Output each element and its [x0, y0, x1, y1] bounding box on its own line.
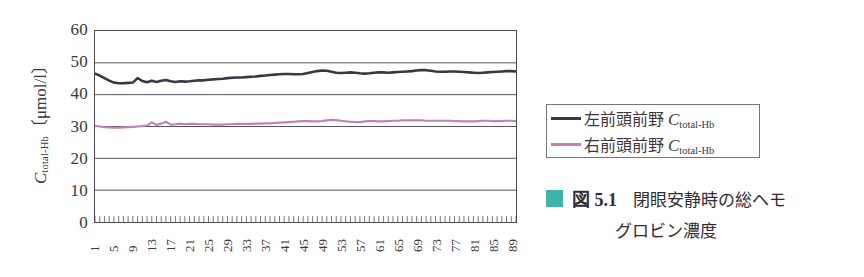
- plot-svg: [95, 31, 516, 222]
- caption-text-first-line: 閉眼安静時の総ヘモ: [633, 186, 786, 211]
- legend-entry-label: 右前頭前野Ctotal-Hb: [584, 132, 714, 156]
- caption-text-second-line: グロビン濃度: [615, 222, 717, 241]
- x-axis-tick-label: 37: [259, 212, 272, 252]
- legend-box: 左前頭前野Ctotal-Hb右前頭前野Ctotal-Hb: [546, 104, 760, 158]
- x-axis-tick-label: 49: [316, 212, 329, 252]
- y-axis-title-subscript: total-Hb: [39, 136, 50, 173]
- x-axis-tick-label: 81: [468, 212, 481, 252]
- x-axis-tick-label: 17: [164, 212, 177, 252]
- legend-label-symbol: C: [664, 136, 679, 155]
- y-axis-tick-label: 60: [48, 21, 88, 38]
- y-axis-tick-labels: 6050403020100: [44, 0, 88, 277]
- legend-color-swatch: [551, 117, 581, 120]
- x-axis-tick-label: 45: [297, 212, 310, 252]
- x-axis-tick-label: 65: [392, 212, 405, 252]
- y-axis-tick-label: 20: [48, 150, 88, 167]
- x-axis-tick-label: 61: [373, 212, 386, 252]
- x-axis-tick-labels: 1591317212529333741454953576165697377818…: [94, 224, 517, 277]
- legend-entry-2[interactable]: 右前頭前野Ctotal-Hb: [547, 131, 759, 157]
- x-axis-tick-label: 89: [506, 212, 519, 252]
- x-axis-tick-label: 25: [202, 212, 215, 252]
- legend-label-subscript: total-Hb: [679, 119, 714, 130]
- legend-label-text: 右前頭前野: [584, 137, 664, 154]
- figure-caption: 図 5.1 閉眼安静時の総ヘモ グロビン濃度: [546, 185, 856, 242]
- legend-entry-1[interactable]: 左前頭前野Ctotal-Hb: [547, 105, 759, 131]
- x-axis-tick-label: 57: [354, 212, 367, 252]
- x-axis-tick-label: 13: [145, 212, 158, 252]
- legend-label-symbol: C: [664, 110, 679, 129]
- data-series-line-1: [95, 70, 516, 83]
- x-axis-tick-label: 77: [449, 212, 462, 252]
- y-axis-tick-label: 0: [48, 214, 88, 231]
- plot-area: [94, 30, 517, 223]
- x-axis-tick-label: 1: [88, 212, 101, 252]
- y-axis-title: Ctotal-Hb〔μmol/l〕: [26, 21, 51, 221]
- x-axis-tick-label: 69: [411, 212, 424, 252]
- legend-entry-label: 左前頭前野Ctotal-Hb: [584, 106, 714, 130]
- x-axis-tick-label: 33: [240, 212, 253, 252]
- x-axis-tick-label: 85: [487, 212, 500, 252]
- x-axis-tick-label: 53: [335, 212, 348, 252]
- legend-label-subscript: total-Hb: [679, 145, 714, 156]
- legend-color-swatch: [551, 143, 581, 146]
- x-axis-tick-label: 29: [221, 212, 234, 252]
- y-axis-title-symbol: C: [31, 173, 50, 184]
- x-axis-tick-label: 73: [430, 212, 443, 252]
- y-axis-tick-label: 10: [48, 182, 88, 199]
- y-axis-tick-label: 50: [48, 53, 88, 70]
- legend-label-text: 左前頭前野: [584, 111, 664, 128]
- caption-marker-square: [546, 190, 563, 207]
- caption-line-1: 図 5.1 閉眼安静時の総ヘモ: [546, 185, 856, 211]
- x-axis-tick-label: 41: [278, 212, 291, 252]
- x-axis-tick-label: 5: [107, 212, 120, 252]
- figure-container: 6050403020100 Ctotal-Hb〔μmol/l〕 15913172…: [0, 0, 864, 277]
- y-axis-tick-label: 40: [48, 85, 88, 102]
- caption-figure-number: 図 5.1: [572, 185, 617, 211]
- y-axis-title-unit: 〔μmol/l〕: [31, 57, 50, 136]
- caption-line-2: グロビン濃度: [546, 217, 856, 242]
- x-axis-tick-label: 9: [126, 212, 139, 252]
- x-axis-tick-label: 21: [183, 212, 196, 252]
- chart-block: 6050403020100 Ctotal-Hb〔μmol/l〕 15913172…: [0, 0, 530, 277]
- y-axis-tick-label: 30: [48, 118, 88, 135]
